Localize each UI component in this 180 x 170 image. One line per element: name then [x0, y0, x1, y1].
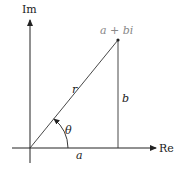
point-label: a + bi: [100, 24, 133, 37]
imaginary-part-label: b: [122, 92, 129, 105]
complex-plane-diagram: Im Re a + bi r b a θ: [0, 0, 180, 170]
y-axis-label: Im: [22, 3, 37, 16]
complex-point: [116, 38, 119, 41]
real-part-label: a: [76, 149, 83, 162]
angle-label: θ: [65, 124, 72, 137]
x-axis-label: Re: [159, 142, 174, 155]
modulus-label: r: [72, 83, 78, 96]
